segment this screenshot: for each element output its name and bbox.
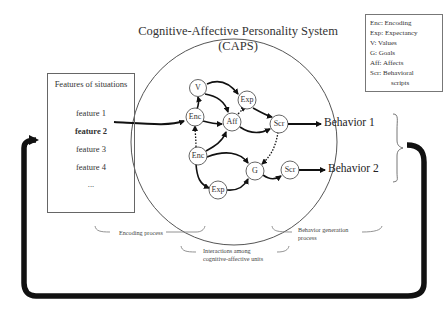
behaviors-brace — [393, 114, 403, 182]
edge-enc-aff — [203, 121, 222, 124]
label-enc-bottom: Enc — [188, 151, 208, 160]
edge-exp-g — [227, 179, 248, 190]
feature-item: feature 4 — [48, 162, 134, 172]
edge-enc2-aff — [206, 132, 226, 151]
label-scr-bottom: Scr — [280, 165, 300, 174]
caption-generation-1: Behavior generation — [298, 226, 348, 234]
behavior-1: Behavior 1 — [324, 116, 375, 128]
diagram-title: Cognitive-Affective Personality System (… — [118, 24, 358, 54]
edge-v-exp — [207, 81, 238, 94]
legend-enc: Enc: Encoding — [370, 18, 438, 28]
behavior-2: Behavior 2 — [328, 162, 379, 174]
edge-scr-g-dotted — [262, 132, 278, 164]
feature-item-highlighted: feature 2 — [48, 126, 134, 136]
features-header: Features of situations — [48, 79, 134, 89]
edge-enc2-g — [207, 153, 248, 163]
feature-item: feature 1 — [48, 108, 134, 118]
label-exp-top: Exp — [237, 95, 257, 104]
caption-encoding: Encoding process — [119, 229, 163, 237]
legend-exp: Exp: Expectancy — [370, 28, 438, 38]
system-circle — [131, 39, 337, 245]
label-v: V — [188, 83, 208, 92]
label-enc-top: Enc — [185, 112, 205, 121]
legend-box: Enc: Encoding Exp: Expectancy V: Values … — [365, 14, 443, 92]
caption-generation-2: process — [298, 234, 317, 242]
edge-enc2-enc-dotted — [195, 126, 196, 147]
label-scr-top: Scr — [269, 119, 289, 128]
caption-interactions-2: cognitive-affective units — [203, 255, 263, 263]
label-exp-bottom: Exp — [208, 185, 228, 194]
feature-item-ellipsis: ... — [48, 179, 134, 189]
legend-v: V: Values — [370, 38, 438, 48]
edge-exp-scr — [253, 108, 272, 117]
edge-enc-v — [197, 97, 199, 109]
edge-g-scr — [263, 175, 281, 179]
label-g: G — [245, 166, 265, 175]
legend-g: G: Goals — [370, 48, 438, 58]
legend-aff: Aff: Affects — [370, 58, 438, 68]
label-aff: Aff — [222, 117, 242, 126]
legend-scr: Scr: Behavioral — [370, 68, 438, 78]
feature-item: feature 3 — [48, 144, 134, 154]
legend-scr-cont: scripts — [370, 78, 438, 88]
caption-interactions-1: Interactions among — [203, 247, 251, 255]
edge-v-aff — [205, 94, 228, 112]
edge-aff-scr — [240, 127, 270, 133]
features-box: Features of situations feature 1 feature… — [47, 73, 135, 213]
